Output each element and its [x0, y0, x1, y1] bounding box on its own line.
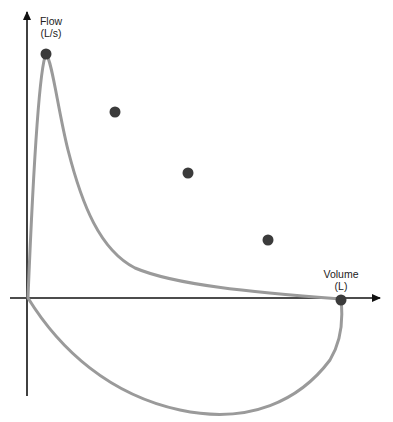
y-axis-unit: (L/s) [36, 27, 66, 39]
point-3 [263, 235, 274, 246]
y-axis-label: Flow (L/s) [36, 15, 66, 39]
y-axis-title: Flow [36, 15, 66, 27]
x-axis-unit: (L) [318, 280, 364, 292]
x-axis-title: Volume [318, 268, 364, 280]
peak-flow-point [41, 49, 52, 60]
inspiratory-curve [28, 298, 342, 414]
end-volume-point [336, 295, 347, 306]
point-1 [110, 107, 121, 118]
x-axis-label: Volume (L) [318, 268, 364, 292]
point-2 [183, 168, 194, 179]
flow-volume-diagram [0, 0, 393, 422]
